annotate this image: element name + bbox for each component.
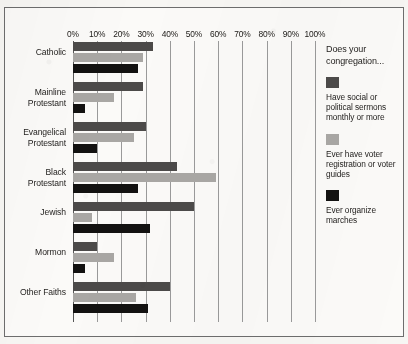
y-axis-category-label: MainlineProtestant (0, 87, 73, 108)
legend-entries: Have social or political sermons monthly… (326, 77, 402, 226)
legend-entry: Ever have voter registration or voter gu… (326, 134, 402, 180)
bar (73, 242, 97, 251)
y-axis-category-label: Other Faiths (0, 287, 73, 298)
bar (73, 53, 143, 62)
x-tick-label: 100% (305, 29, 326, 39)
category-group: Other Faiths (73, 282, 315, 313)
bar (73, 202, 194, 211)
grouped-bar-chart: 0%10%20%30%40%50%60%70%80%90%100% Cathol… (0, 0, 408, 344)
x-tick-label: 90% (283, 29, 299, 39)
x-tick-label: 20% (113, 29, 129, 39)
y-axis-category-label: Catholic (0, 47, 73, 58)
bar (73, 253, 114, 262)
category-group: Catholic (73, 42, 315, 73)
plot-area: CatholicMainlineProtestantEvangelicalPro… (73, 41, 315, 322)
category-group: Jewish (73, 202, 315, 233)
bar (73, 82, 143, 91)
y-axis-category-label: BlackProtestant (0, 167, 73, 188)
legend-entry: Have social or political sermons monthly… (326, 77, 402, 123)
bar (73, 264, 85, 273)
bar (73, 304, 148, 313)
bar (73, 42, 153, 51)
x-tick-label: 80% (258, 29, 274, 39)
legend-label: Have social or political sermons monthly… (326, 92, 402, 123)
bar (73, 122, 146, 131)
figure-container: 0%10%20%30%40%50%60%70%80%90%100% Cathol… (0, 0, 408, 344)
legend-entry: Ever organize marches (326, 190, 402, 225)
x-tick-label: 60% (210, 29, 226, 39)
category-group: Mormon (73, 242, 315, 273)
bar (73, 282, 170, 291)
bar (73, 93, 114, 102)
legend-swatch-sermons (326, 77, 339, 88)
legend-swatch-voter-registration (326, 134, 339, 145)
y-axis-category-label: EvangelicalProtestant (0, 127, 73, 148)
bar (73, 213, 92, 222)
bar (73, 133, 134, 142)
x-tick-label: 10% (89, 29, 105, 39)
category-group: EvangelicalProtestant (73, 122, 315, 153)
x-tick-label: 70% (234, 29, 250, 39)
gridline (315, 41, 316, 322)
bar (73, 293, 136, 302)
legend-label: Ever organize marches (326, 205, 402, 225)
y-axis-category-label: Jewish (0, 207, 73, 218)
category-group: BlackProtestant (73, 162, 315, 193)
legend-label: Ever have voter registration or voter gu… (326, 149, 402, 180)
x-tick-label: 0% (67, 29, 79, 39)
bar (73, 224, 150, 233)
bar (73, 64, 138, 73)
category-group: MainlineProtestant (73, 82, 315, 113)
y-axis-category-label: Mormon (0, 247, 73, 258)
bar (73, 144, 97, 153)
bar (73, 104, 85, 113)
bar (73, 173, 216, 182)
bar (73, 162, 177, 171)
bar (73, 184, 138, 193)
x-tick-label: 40% (162, 29, 178, 39)
legend-swatch-marches (326, 190, 339, 201)
x-tick-label: 30% (137, 29, 153, 39)
x-tick-label: 50% (186, 29, 202, 39)
chart-legend: Does your congregation... Have social or… (326, 44, 402, 237)
legend-title: Does your congregation... (326, 44, 402, 67)
